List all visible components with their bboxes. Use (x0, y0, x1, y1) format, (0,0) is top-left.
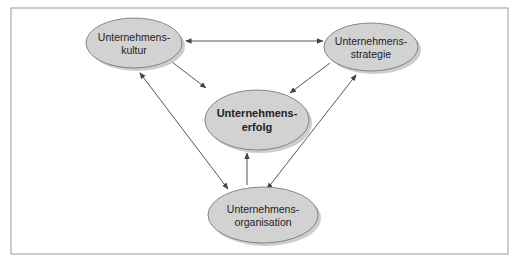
node-label-line: Unternehmens- (217, 107, 298, 119)
node-label-line: erfolg (242, 121, 273, 133)
node-label-line: Unternehmens- (227, 203, 300, 215)
node-label-line: strategie (351, 48, 391, 60)
node-ellipse (205, 90, 309, 150)
node-label-line: organisation (234, 216, 291, 228)
node-label-line: kultur (121, 44, 147, 56)
success-factors-diagram: Unternehmens-kulturUnternehmens-strategi… (0, 0, 519, 264)
node-label-line: Unternehmens- (98, 31, 171, 43)
node-label-line: Unternehmens- (335, 35, 408, 47)
